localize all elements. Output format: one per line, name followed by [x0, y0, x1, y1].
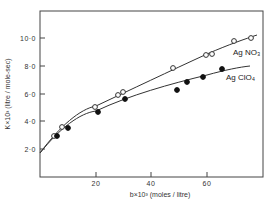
agclo4-series-label: Ag ClO₄: [226, 73, 255, 82]
x-tick-label: 20: [92, 180, 101, 187]
y-tick-label: 6·0: [24, 91, 36, 98]
chart: 2·0 4·0 6·0 8·0 10·0 20 40 60 b×10³ (mol…: [0, 0, 274, 207]
x-tick-label: 60: [203, 180, 212, 187]
x-axis-ticks: [96, 172, 207, 177]
x-axis-label: b×10³ (moles / litre): [130, 191, 191, 199]
y-axis-label: K×10³ (litre / mole-sec): [4, 59, 12, 130]
agno3-series-label: Ag NO₃: [233, 48, 260, 57]
agclo4-fit-curve: [40, 66, 250, 153]
y-tick-label: 4·0: [24, 118, 36, 125]
agno3-points: [52, 36, 254, 139]
y-tick-label: 10·0: [20, 35, 36, 42]
y-axis-ticks: [40, 38, 45, 149]
agno3-fit-curve: [40, 35, 257, 153]
plot-frame: [40, 11, 263, 177]
x-tick-label: 40: [147, 180, 156, 187]
y-tick-label: 8·0: [24, 63, 36, 70]
y-tick-label: 2·0: [24, 146, 36, 153]
